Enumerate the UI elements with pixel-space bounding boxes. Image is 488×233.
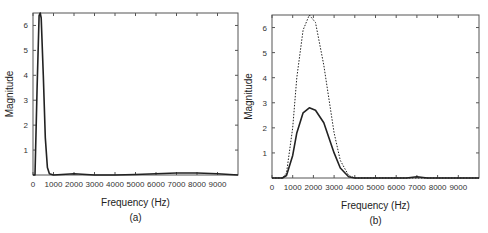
x-tick-label: 7000 [408, 183, 426, 192]
x-tick-label: 8000 [188, 180, 206, 189]
y-tick-label: 6 [263, 24, 268, 33]
x-axis-label: Frequency (Hz) [101, 197, 170, 208]
x-tick-label: 3000 [86, 180, 104, 189]
y-tick-label: 2 [24, 121, 29, 130]
x-tick-label: 2000 [65, 180, 83, 189]
x-tick-label: 4000 [106, 180, 124, 189]
x-tick-label: 1000 [45, 180, 63, 189]
y-tick-label: 4 [24, 71, 29, 80]
y-tick-label: 1 [263, 149, 268, 158]
series-magnitude [33, 13, 238, 175]
y-tick-label: 3 [24, 96, 29, 105]
plot-frame [272, 15, 479, 178]
y-axis-label: Magnitude [243, 73, 254, 120]
x-tick-label: 9000 [449, 183, 467, 192]
x-tick-label: 6000 [147, 180, 165, 189]
y-tick-label: 5 [24, 46, 29, 55]
y-tick-label: 6 [24, 21, 29, 30]
y-axis-label: Magnitude [4, 70, 15, 117]
figure: 0100020003000400050006000700080009000123… [0, 0, 488, 233]
x-tick-label: 4000 [346, 183, 364, 192]
x-tick-label: 8000 [429, 183, 447, 192]
panel-caption: (a) [129, 212, 141, 223]
x-tick-label: 0 [31, 180, 36, 189]
x-tick-label: 1000 [284, 183, 302, 192]
x-tick-label: 2000 [305, 183, 323, 192]
chart-b: 0100020003000400050006000700080009000123… [243, 15, 479, 226]
x-tick-label: 6000 [387, 183, 405, 192]
series-solid [272, 108, 479, 178]
series-dotted [272, 15, 479, 178]
y-tick-label: 2 [263, 124, 268, 133]
y-tick-label: 5 [263, 49, 268, 58]
x-axis-label: Frequency (Hz) [341, 200, 410, 211]
x-tick-label: 7000 [168, 180, 186, 189]
x-tick-label: 3000 [325, 183, 343, 192]
y-tick-label: 3 [263, 99, 268, 108]
y-tick-label: 4 [263, 74, 268, 83]
panel-caption: (b) [369, 215, 381, 226]
x-tick-label: 5000 [367, 183, 385, 192]
x-tick-label: 0 [270, 183, 275, 192]
chart-a: 0100020003000400050006000700080009000123… [4, 13, 238, 223]
plot-frame [33, 13, 238, 175]
x-tick-label: 5000 [127, 180, 145, 189]
y-tick-label: 1 [24, 146, 29, 155]
x-tick-label: 9000 [209, 180, 227, 189]
